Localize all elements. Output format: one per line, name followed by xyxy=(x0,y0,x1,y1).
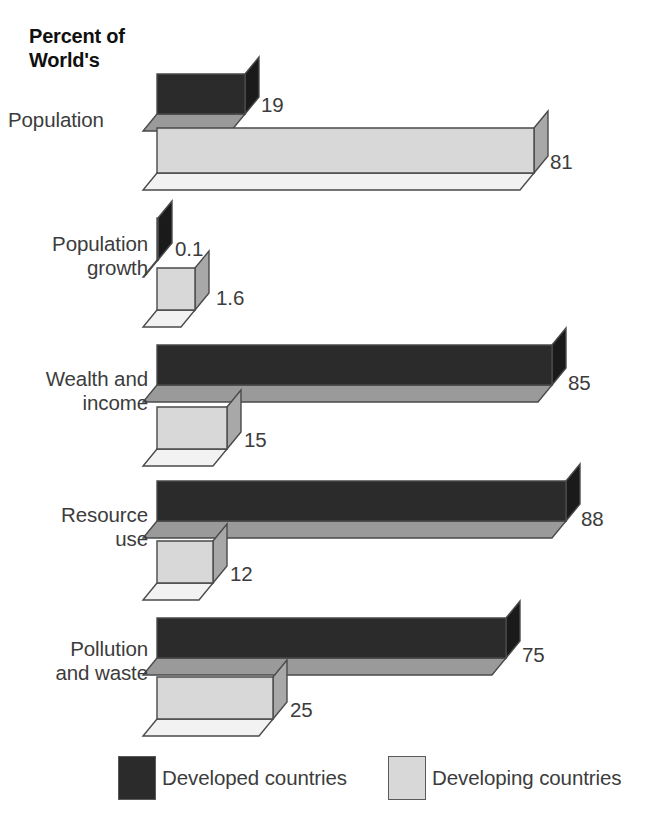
legend-label: Developed countries xyxy=(162,766,347,790)
bar-value-label: 19 xyxy=(261,95,284,116)
bar-value-label: 85 xyxy=(568,373,591,394)
bar-value-label: 88 xyxy=(581,509,604,530)
legend-label: Developing countries xyxy=(432,766,621,790)
category-label: Population xyxy=(8,108,148,132)
bar-value-label: 75 xyxy=(522,645,545,666)
category-label: Pollution and waste xyxy=(8,637,148,685)
chart-legend: Developed countriesDeveloping countries xyxy=(0,756,662,816)
bar-value-label: 1.6 xyxy=(216,288,244,309)
bar-value-label: 12 xyxy=(230,564,253,585)
developing-swatch xyxy=(388,756,426,800)
bar-side-face xyxy=(566,464,580,521)
developed-swatch xyxy=(118,756,156,800)
bar-side-face xyxy=(506,601,520,658)
bar-value-label: 81 xyxy=(550,152,573,173)
chart-root: Percent of World's Population1981Populat… xyxy=(0,0,662,830)
legend-item[interactable]: Developed countries xyxy=(118,756,347,800)
bar-side-face xyxy=(273,660,287,719)
bar-front-face xyxy=(157,677,273,719)
legend-item[interactable]: Developing countries xyxy=(388,756,621,800)
category-label: Wealth and income xyxy=(8,367,148,415)
bar-value-label: 15 xyxy=(244,430,267,451)
category-label: Resource use xyxy=(8,503,148,551)
bar-bottom-face xyxy=(143,719,273,736)
bar-value-label: 25 xyxy=(290,700,313,721)
bar-value-label: 0.1 xyxy=(175,239,203,260)
category-label: Population growth xyxy=(8,232,148,280)
